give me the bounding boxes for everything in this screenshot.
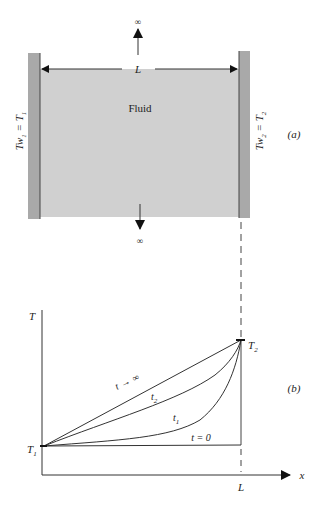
couette-temperature-diagram: L ∞ Fluid ∞ Tw1 = T1 Tw2 = T2 (a) T x L: [0, 0, 324, 509]
panel-a-tag: (a): [288, 128, 301, 141]
curve-t0: [44, 445, 241, 446]
curve-label-t0: t = 0: [191, 432, 211, 443]
x-axis-label: x: [299, 469, 305, 481]
right-wall: [239, 51, 250, 218]
width-label: L: [134, 63, 141, 75]
curve-label-t2: t2: [151, 391, 158, 405]
curve-t-infinity: [44, 340, 241, 446]
t1-point-label: T1: [27, 443, 37, 458]
left-wall-label: Tw1 = T1: [13, 112, 28, 151]
panel-a: L ∞ Fluid ∞ Tw1 = T1 Tw2 = T2 (a): [13, 17, 301, 246]
panel-b: T x L T1 T2 t→∞ t2 t1 t = 0 (b): [27, 310, 305, 493]
panel-b-tag: (b): [288, 382, 301, 395]
right-wall-label: Tw2 = T2: [253, 111, 268, 150]
down-infinity-label: ∞: [137, 236, 143, 246]
curve-label-t1: t1: [173, 412, 179, 426]
up-infinity-label: ∞: [135, 17, 141, 27]
y-axis-label: T: [29, 310, 36, 322]
t1-point-marker: [40, 445, 47, 447]
curve-label-t-infinity: t→∞: [113, 371, 140, 392]
x-end-label: L: [237, 481, 244, 493]
t2-point-marker: [236, 339, 245, 341]
fluid-region: [40, 69, 239, 217]
left-wall: [28, 53, 40, 219]
fluid-label: Fluid: [128, 102, 152, 114]
t2-point-label: T2: [248, 339, 258, 354]
